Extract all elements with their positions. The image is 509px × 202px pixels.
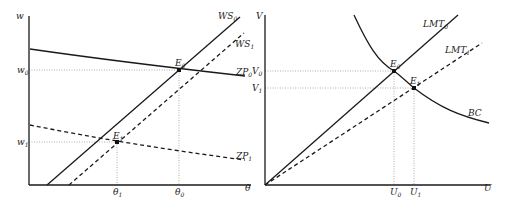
tick-w0: w0	[17, 65, 29, 76]
theta-axis-label: θ	[245, 183, 251, 193]
bc-curve	[354, 15, 489, 123]
u-axis-label: U	[484, 183, 492, 193]
e0-label: E0	[389, 59, 401, 70]
zp1-label: ZP1	[235, 151, 252, 162]
tick-theta1: θ1	[113, 187, 122, 198]
bc-label: BC	[467, 108, 482, 118]
point-e0	[177, 68, 181, 72]
lmt0-label: LMT0	[422, 19, 448, 30]
e0-label: E0	[174, 58, 186, 69]
lmt1-label: LMT1	[444, 45, 470, 56]
ws0-line	[47, 17, 240, 185]
tick-v0: V0	[252, 66, 263, 77]
tick-u0: U0	[390, 187, 402, 198]
ws1-label: WS1	[235, 39, 254, 50]
zp0-curve	[30, 49, 245, 76]
tick-u1: U1	[410, 187, 421, 198]
w-axis-label: w	[16, 11, 24, 21]
point-e1	[412, 86, 416, 90]
v-axis-label: V	[256, 11, 264, 21]
left-panel: w θ w0 w1 θ1 θ0 WS0 WS1 ZP0 ZP1 E0 E1	[16, 11, 254, 198]
ws0-label: WS0	[218, 11, 237, 22]
e1-label: E1	[409, 76, 420, 87]
e1-label: E1	[112, 131, 123, 142]
right-panel: V U V0 V1 U0 U1 LMT0 LMT1 BC E0 E1	[252, 11, 492, 198]
tick-w1: w1	[17, 137, 29, 148]
lmt0-line	[265, 15, 458, 185]
lmt1-line	[265, 43, 482, 185]
tick-v1: V1	[252, 83, 262, 94]
point-e0	[392, 69, 396, 73]
diagram-canvas: w θ w0 w1 θ1 θ0 WS0 WS1 ZP0 ZP1 E0 E1 V …	[0, 0, 509, 202]
zp0-label: ZP0	[235, 67, 252, 78]
tick-theta0: θ0	[175, 187, 184, 198]
zp1-curve	[30, 125, 245, 160]
ws1-line	[69, 33, 244, 185]
